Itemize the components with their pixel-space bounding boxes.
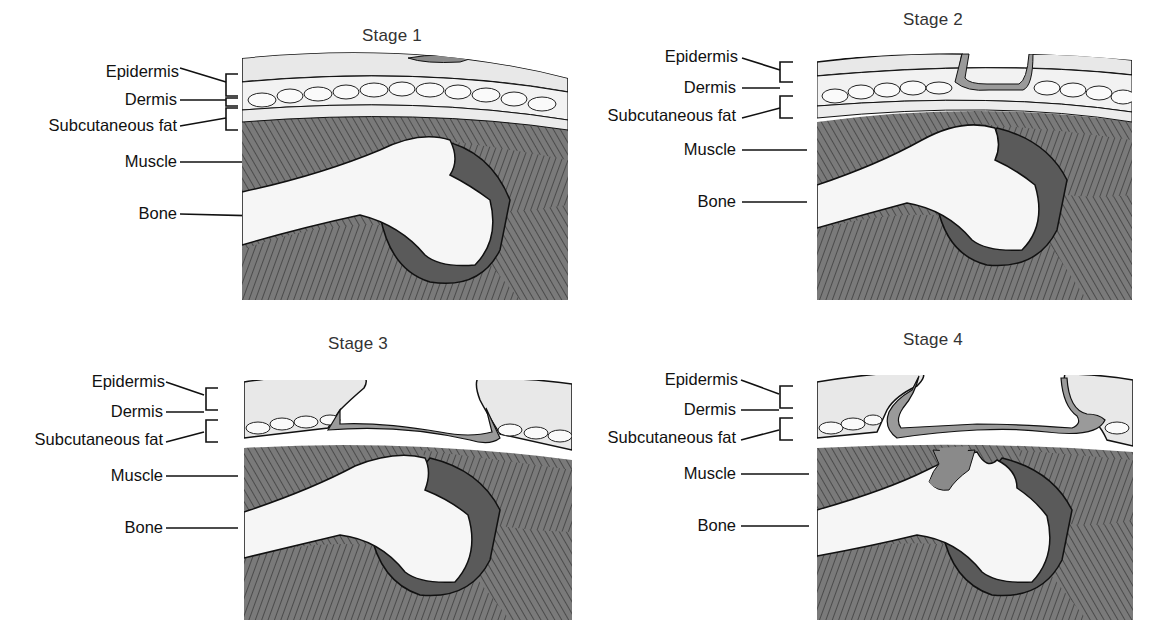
stage-1-illustration <box>0 0 577 310</box>
stage-4-illustration <box>577 320 1154 630</box>
stage-2-illustration <box>577 0 1154 310</box>
stage-3-panel: Stage 3 Epidermis Dermis Subcutaneous fa… <box>0 320 577 630</box>
stage-1-panel: Stage 1 Epidermis Dermis Subcutaneous fa… <box>0 0 577 310</box>
stage-2-panel: Stage 2 Epidermis Dermis Subcutaneous fa… <box>577 0 1154 310</box>
stage-3-illustration <box>0 320 577 630</box>
stage-4-panel: Stage 4 Epidermis Dermis Subcutaneous fa… <box>577 320 1154 630</box>
